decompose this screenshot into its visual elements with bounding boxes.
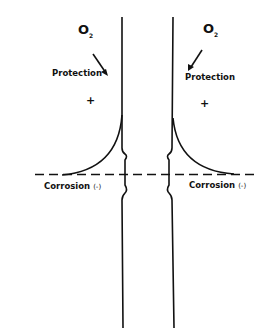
meniscus-right <box>173 118 234 174</box>
meniscus-left <box>62 115 122 175</box>
diagram <box>0 0 264 331</box>
corrosion-left-label: Corrosion (-) <box>44 181 101 191</box>
plus-right: + <box>200 97 209 110</box>
protection-left-label: Protection <box>52 68 102 78</box>
plus-left: + <box>86 94 95 107</box>
left-wall <box>122 17 127 328</box>
arrow-left-head <box>101 69 108 76</box>
right-wall <box>168 17 175 328</box>
o2-left-label: O2 <box>78 22 93 39</box>
o2-right-label: O2 <box>203 21 218 38</box>
protection-right-label: Protection <box>185 72 235 82</box>
corrosion-right-label: Corrosion (-) <box>189 180 246 190</box>
arrow-right-shaft <box>191 50 202 67</box>
